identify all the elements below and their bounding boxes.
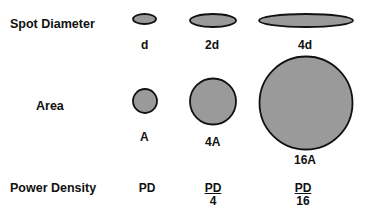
pd-value: PD (132, 182, 162, 195)
row-label-power-density: Power Density (10, 181, 96, 195)
pd-denominator: 16 (288, 195, 318, 208)
power-density-pd-over-16: PD 16 (288, 182, 318, 208)
label-a: A (140, 130, 149, 144)
power-density-pd: PD (132, 182, 162, 195)
label-2d: 2d (205, 38, 219, 52)
label-4a: 4A (205, 135, 220, 149)
area-circle-a (133, 89, 157, 113)
label-d: d (141, 38, 148, 52)
spot-ellipse-d (133, 14, 156, 24)
row-label-spot-diameter: Spot Diameter (10, 17, 95, 31)
pd-denominator: 4 (198, 195, 228, 208)
spot-ellipse-4d (259, 14, 353, 27)
label-16a: 16A (294, 153, 316, 167)
power-density-pd-over-4: PD 4 (198, 182, 228, 208)
area-circle-16a (260, 57, 353, 150)
row-label-area: Area (36, 99, 64, 113)
area-circle-4a (190, 79, 236, 125)
spot-ellipse-2d (190, 14, 236, 27)
label-4d: 4d (298, 38, 312, 52)
